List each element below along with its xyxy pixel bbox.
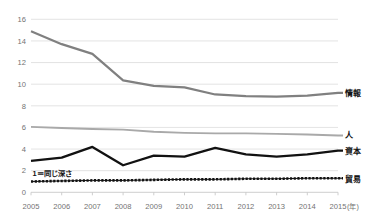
line-chart: 0246810121416 20052006200720082009201020… (0, 0, 372, 220)
chart-annotation: 1＝同じ深さ (33, 169, 72, 178)
series-line (31, 147, 343, 165)
x-axis-tick-labels: 2005200620072008200920102011201220132014… (23, 202, 347, 211)
y-axis-tick-label: 14 (18, 37, 26, 46)
y-axis-tick-label: 4 (22, 145, 26, 154)
annotation-layer: 1＝同じ深さ (33, 169, 72, 178)
y-axis-tick-label: 10 (18, 80, 26, 89)
series-line (31, 127, 343, 136)
y-axis-tick-label: 6 (22, 123, 26, 132)
grid-layer (31, 19, 338, 195)
y-axis-tick-label: 2 (22, 166, 26, 175)
x-axis-tick-label: 2010 (176, 202, 193, 211)
series-label: 情報 (344, 88, 362, 98)
x-axis-tick-label: 2009 (145, 202, 162, 211)
x-axis-unit-label: (年) (347, 202, 359, 211)
series-layer (31, 31, 343, 181)
y-axis-tick-label: 12 (18, 58, 26, 67)
x-axis-tick-label: 2013 (268, 202, 285, 211)
x-axis-tick-label: 2008 (115, 202, 132, 211)
x-axis-tick-label: 2015 (330, 202, 347, 211)
y-axis-tick-label: 0 (22, 188, 26, 197)
series-label: 資本 (345, 146, 361, 156)
x-axis-tick-label: 2005 (23, 202, 40, 211)
x-axis-tick-label: 2006 (53, 202, 70, 211)
y-axis-tick-label: 16 (18, 15, 26, 24)
chart-container: 0246810121416 20052006200720082009201020… (0, 0, 372, 220)
x-axis-tick-label: 2007 (84, 202, 101, 211)
y-axis-tick-label: 8 (22, 102, 26, 111)
x-axis-tick-label: 2011 (207, 202, 223, 211)
x-axis-tick-label: 2012 (237, 202, 254, 211)
x-axis-tick-label: 2014 (299, 202, 316, 211)
series-label: 人 (345, 130, 354, 140)
series-end-labels: 情報人資本貿易 (344, 88, 362, 184)
y-axis-tick-labels: 0246810121416 (18, 15, 26, 197)
series-label: 貿易 (345, 174, 361, 184)
